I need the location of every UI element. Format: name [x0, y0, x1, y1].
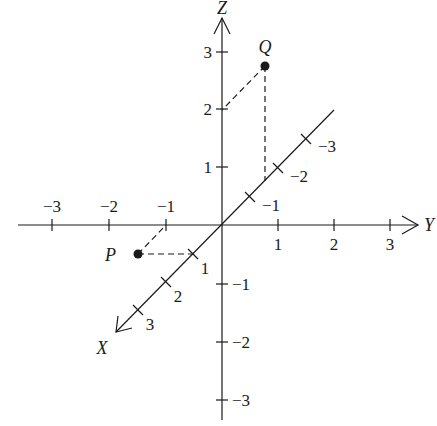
svg-text:2: 2: [174, 287, 183, 306]
y-axis-label: Y: [424, 215, 436, 235]
p-projection-to-y: [138, 225, 166, 254]
svg-text:−1: −1: [157, 197, 175, 216]
svg-text:−2: −2: [290, 167, 308, 186]
z-axis-label: Z: [217, 0, 228, 18]
projection-lines: [138, 66, 265, 254]
point-q-label: Q: [259, 37, 272, 57]
x-tick-labels: 1 2 3 −1 −2 −3: [146, 137, 336, 334]
svg-text:−3: −3: [43, 197, 61, 216]
q-projection-to-z: [222, 66, 265, 110]
svg-text:−2: −2: [100, 197, 118, 216]
svg-text:1: 1: [201, 259, 210, 278]
point-p-label: P: [104, 245, 116, 265]
x-axis-line: [116, 110, 334, 332]
svg-text:1: 1: [274, 235, 283, 254]
svg-text:3: 3: [146, 315, 155, 334]
x-axis-label: X: [96, 338, 109, 358]
point-q-marker: [261, 62, 270, 71]
svg-text:1: 1: [204, 158, 213, 177]
svg-text:2: 2: [204, 100, 213, 119]
svg-text:−2: −2: [232, 333, 250, 352]
svg-text:2: 2: [330, 235, 339, 254]
svg-text:−3: −3: [232, 391, 250, 410]
z-tick-labels: 1 2 3 −1 −2 −3: [204, 43, 251, 410]
svg-text:−3: −3: [318, 137, 336, 156]
point-p-marker: [134, 250, 143, 259]
svg-text:−1: −1: [232, 275, 250, 294]
svg-text:−1: −1: [262, 196, 280, 215]
svg-text:3: 3: [386, 235, 395, 254]
svg-text:3: 3: [204, 43, 213, 62]
coordinate-diagram: P Q Y Z X 1 2 3 −1 −2 −3 1 2 3 −1 −2 −3 …: [0, 0, 437, 426]
